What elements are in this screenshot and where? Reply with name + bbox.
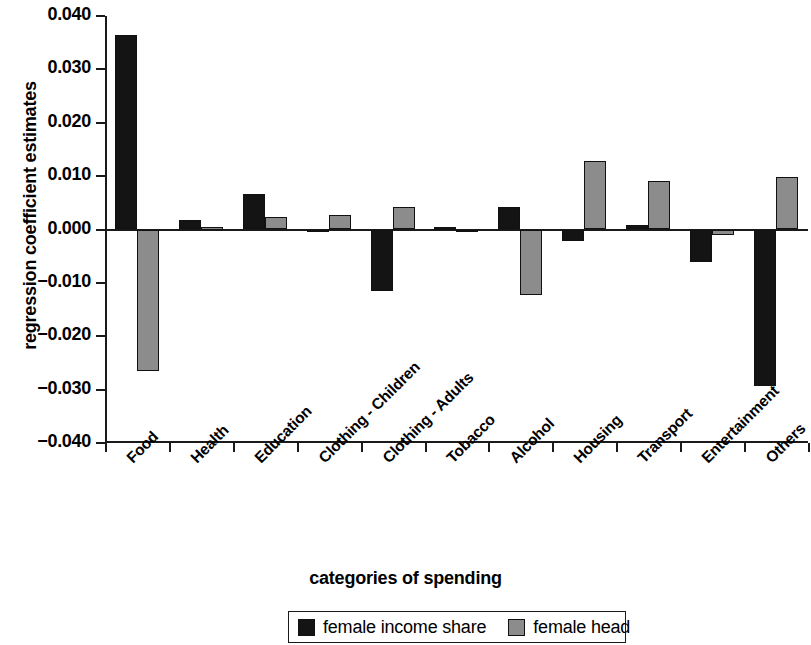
- legend-label-female-income-share: female income share: [323, 617, 486, 638]
- legend-swatch-black: [298, 619, 315, 636]
- x-category-label: Transport: [634, 405, 696, 467]
- x-category-label: Others: [762, 420, 809, 467]
- x-category-label: Education: [251, 402, 315, 466]
- x-category-label: Tobacco: [443, 411, 499, 467]
- chart-legend: female income share female head: [288, 611, 626, 643]
- x-axis-title: categories of spending: [0, 568, 811, 589]
- legend-swatch-gray: [508, 619, 525, 636]
- bar-chart-figure: regression coefficient estimates 0.0400.…: [0, 0, 811, 645]
- x-category-label: Housing: [570, 411, 626, 467]
- x-category-label: Alcohol: [506, 415, 558, 467]
- legend-entry-female-head: female head: [508, 617, 630, 638]
- legend-label-female-head: female head: [533, 617, 630, 638]
- category-labels: FoodHealthEducationClothing - ChildrenCl…: [0, 0, 811, 645]
- x-category-label: Food: [123, 428, 162, 467]
- legend-entry-female-income-share: female income share: [298, 617, 486, 638]
- x-category-label: Health: [187, 421, 232, 466]
